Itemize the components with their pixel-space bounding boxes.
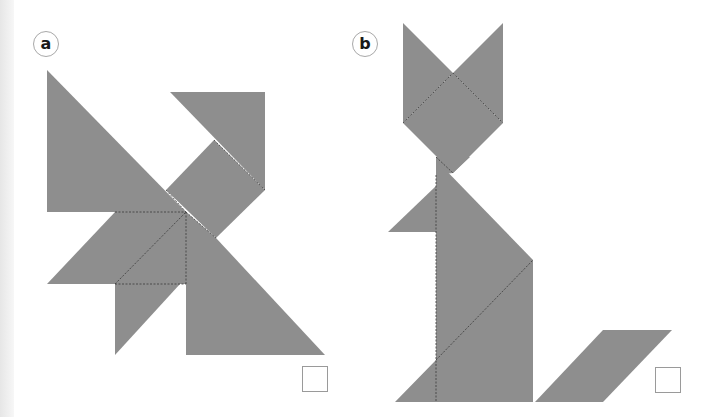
tangram-figures <box>0 0 715 417</box>
answer-checkbox-a[interactable] <box>302 366 328 392</box>
cat-tail-parallelogram <box>535 330 672 402</box>
piece-large-triangle-left <box>47 70 186 212</box>
cat-paw-triangle <box>388 186 436 232</box>
piece-large-triangle-right <box>186 212 325 355</box>
answer-checkbox-b[interactable] <box>655 367 681 393</box>
tangram-cat <box>388 23 672 402</box>
piece-small-triangle-bottom <box>115 284 180 355</box>
